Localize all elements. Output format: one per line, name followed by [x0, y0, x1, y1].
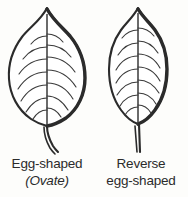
caption-line-secondary: (Ovate): [0, 172, 94, 189]
leaf-obovate-icon: [94, 0, 188, 155]
leaf-shape-diagram: Egg-shaped (Ovate) Reverse egg-shaped: [0, 0, 188, 197]
leaf-figure-obovate: [94, 0, 188, 155]
caption-line-secondary: egg-shaped: [94, 172, 188, 189]
leaf-caption-obovate: Reverse egg-shaped: [94, 155, 188, 189]
leaf-ovate-icon: [0, 0, 94, 155]
caption-line-primary: Egg-shaped: [0, 155, 94, 172]
caption-line-primary: Reverse: [94, 155, 188, 172]
leaf-caption-ovate: Egg-shaped (Ovate): [0, 155, 94, 189]
leaf-figure-ovate: [0, 0, 94, 155]
